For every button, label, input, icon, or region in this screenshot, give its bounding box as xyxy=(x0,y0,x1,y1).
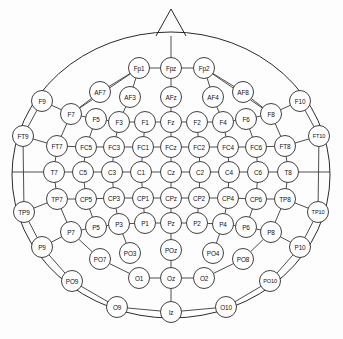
electrode-node-tp7[interactable]: TP7 xyxy=(47,189,68,210)
electrode-node-fc3[interactable]: FC3 xyxy=(104,137,125,158)
electrode-node-fz[interactable]: Fz xyxy=(161,112,182,133)
electrode-link xyxy=(123,234,127,243)
electrode-node-ft10[interactable]: FT10 xyxy=(309,126,330,147)
electrode-node-f10[interactable]: F10 xyxy=(290,91,311,112)
electrode-link xyxy=(207,78,210,87)
electrode-label: TP7 xyxy=(51,196,63,203)
electrode-node-fc5[interactable]: FC5 xyxy=(76,137,97,158)
electrode-link xyxy=(81,286,108,302)
electrode-link xyxy=(127,308,160,311)
electrode-node-c1[interactable]: C1 xyxy=(131,162,152,183)
electrode-node-afz[interactable]: AFz xyxy=(161,87,182,108)
electrode-node-fc4[interactable]: FC4 xyxy=(218,137,239,158)
electrode-node-p9[interactable]: P9 xyxy=(32,237,53,258)
electrode-node-cp2[interactable]: CP2 xyxy=(189,188,210,209)
electrode-node-po8[interactable]: PO8 xyxy=(233,249,254,270)
electrode-node-pz[interactable]: Pz xyxy=(161,213,182,234)
electrode-node-fp1[interactable]: Fp1 xyxy=(129,58,150,79)
electrode-node-p2[interactable]: P2 xyxy=(187,213,208,234)
electrode-node-f2[interactable]: F2 xyxy=(187,112,208,133)
electrode-node-fc2[interactable]: FC2 xyxy=(189,137,210,158)
electrode-node-f6[interactable]: F6 xyxy=(236,109,257,130)
electrode-node-fcz[interactable]: FCz xyxy=(161,137,182,158)
electrode-node-f3[interactable]: F3 xyxy=(109,112,130,133)
electrode-node-o9[interactable]: O9 xyxy=(107,297,128,318)
electrode-node-f8[interactable]: F8 xyxy=(261,104,282,125)
electrode-node-fc1[interactable]: FC1 xyxy=(133,137,154,158)
electrode-node-f7[interactable]: F7 xyxy=(61,104,82,125)
electrode-label: F1 xyxy=(141,119,149,126)
electrode-node-cpz[interactable]: CPz xyxy=(161,188,182,209)
electrode-node-cp5[interactable]: CP5 xyxy=(76,189,97,210)
electrode-node-c6[interactable]: C6 xyxy=(248,162,269,183)
electrode-label: TP8 xyxy=(279,196,291,203)
electrode-node-cz[interactable]: Cz xyxy=(161,162,182,183)
electrode-node-p8[interactable]: P8 xyxy=(261,222,282,243)
electrode-node-fp2[interactable]: Fp2 xyxy=(194,58,215,79)
electrode-node-f5[interactable]: F5 xyxy=(86,109,107,130)
electrode-node-f4[interactable]: F4 xyxy=(213,112,234,133)
electrode-node-cp4[interactable]: CP4 xyxy=(218,188,239,209)
electrode-node-cp1[interactable]: CP1 xyxy=(133,188,154,209)
electrode-node-tp9[interactable]: TP9 xyxy=(14,202,35,223)
electrode-node-o10[interactable]: O10 xyxy=(216,297,237,318)
electrode-node-c5[interactable]: C5 xyxy=(73,162,94,183)
electrode-label: POz xyxy=(165,247,177,254)
electrode-node-af7[interactable]: AF7 xyxy=(90,82,111,103)
electrode-node-af4[interactable]: AF4 xyxy=(203,87,224,108)
electrode-label: PO9 xyxy=(66,278,79,285)
electrode-node-t7[interactable]: T7 xyxy=(44,162,65,183)
electrode-node-po7[interactable]: PO7 xyxy=(90,249,111,270)
electrode-node-ft8[interactable]: FT8 xyxy=(275,136,296,157)
electrode-node-iz[interactable]: Iz xyxy=(161,302,182,323)
electrode-node-p5[interactable]: P5 xyxy=(86,217,107,238)
electrode-node-po10[interactable]: PO10 xyxy=(260,271,281,292)
electrode-node-p7[interactable]: P7 xyxy=(61,222,82,243)
electrode-node-po9[interactable]: PO9 xyxy=(62,271,83,292)
electrode-node-c3[interactable]: C3 xyxy=(102,162,123,183)
electrode-node-o1[interactable]: O1 xyxy=(129,268,150,289)
electrode-link xyxy=(61,124,67,137)
electrode-label: FC1 xyxy=(137,144,149,151)
electrode-node-f1[interactable]: F1 xyxy=(135,112,156,133)
electrode-node-p1[interactable]: P1 xyxy=(135,213,156,234)
electrode-node-c2[interactable]: C2 xyxy=(190,162,211,183)
eeg-montage-diagram: Fp1FpzFp2AF7AF3AFzAF4AF8F9F10F7F5F3F1FzF… xyxy=(0,0,343,339)
electrode-link xyxy=(250,209,253,217)
electrode-node-cp3[interactable]: CP3 xyxy=(104,188,125,209)
electrode-label: F4 xyxy=(219,119,227,126)
electrode-node-p4[interactable]: P4 xyxy=(213,214,234,235)
electrode-node-fpz[interactable]: Fpz xyxy=(161,58,182,79)
electrode-link xyxy=(286,156,287,161)
electrode-label: CPz xyxy=(165,195,177,202)
electrode-node-po4[interactable]: PO4 xyxy=(203,243,224,264)
electrode-node-af8[interactable]: AF8 xyxy=(233,82,254,103)
electrode-node-oz[interactable]: Oz xyxy=(161,268,182,289)
electrode-link xyxy=(286,182,287,188)
electrode-node-af3[interactable]: AF3 xyxy=(120,87,141,108)
electrode-node-p3[interactable]: P3 xyxy=(109,214,130,235)
electrode-label: Iz xyxy=(169,309,174,316)
electrode-node-fc6[interactable]: FC6 xyxy=(246,137,267,158)
electrode-node-tp10[interactable]: TP10 xyxy=(308,202,329,223)
electrode-label: Fp2 xyxy=(199,65,210,73)
electrode-node-ft9[interactable]: FT9 xyxy=(13,126,34,147)
electrode-node-o2[interactable]: O2 xyxy=(194,268,215,289)
electrode-node-tp8[interactable]: TP8 xyxy=(275,189,296,210)
electrode-link xyxy=(251,98,262,107)
electrode-label: P1 xyxy=(141,220,149,227)
electrode-node-cp6[interactable]: CP6 xyxy=(246,189,267,210)
electrode-node-poz[interactable]: POz xyxy=(161,240,182,261)
electrode-node-t8[interactable]: T8 xyxy=(278,162,299,183)
electrode-label: C3 xyxy=(108,169,116,176)
electrode-node-po3[interactable]: PO3 xyxy=(120,243,141,264)
electrode-node-c4[interactable]: C4 xyxy=(219,162,240,183)
electrode-label: PO7 xyxy=(94,256,107,263)
electrode-node-p6[interactable]: P6 xyxy=(236,217,257,238)
electrode-label: FT8 xyxy=(280,143,292,150)
electrode-node-p10[interactable]: P10 xyxy=(290,237,311,258)
electrode-node-ft7[interactable]: FT7 xyxy=(47,136,68,157)
electrode-label: CP6 xyxy=(250,196,263,203)
electrode-link xyxy=(275,209,281,223)
electrode-node-f9[interactable]: F9 xyxy=(32,91,53,112)
